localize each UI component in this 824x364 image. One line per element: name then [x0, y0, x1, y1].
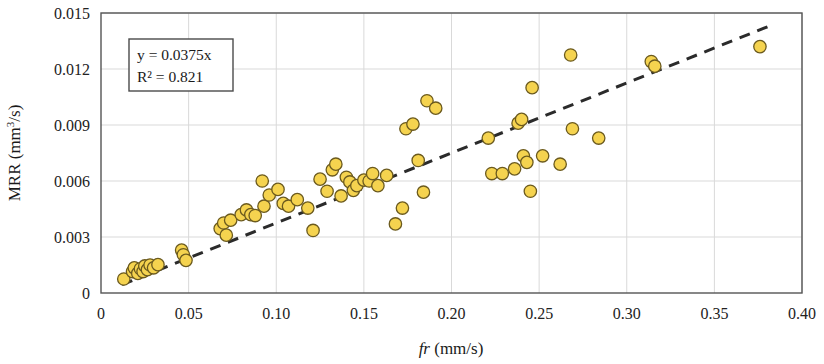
x-tick-label: 0.25 — [525, 305, 553, 322]
data-point — [302, 202, 314, 214]
data-point — [649, 60, 661, 72]
data-point — [566, 123, 578, 135]
data-point — [220, 229, 232, 241]
chart-figure: 00.050.100.150.200.250.300.350.40 00.003… — [0, 0, 824, 364]
data-point — [430, 102, 442, 114]
y-tick-label: 0.009 — [54, 117, 90, 134]
x-tick-label: 0.05 — [175, 305, 203, 322]
scatter-chart: 00.050.100.150.200.250.300.350.40 00.003… — [0, 0, 824, 364]
y-tick-label: 0.015 — [54, 5, 90, 22]
x-tick-label: 0 — [97, 305, 105, 322]
data-point — [330, 158, 342, 170]
equation-annotation-box: y = 0.0375x R² = 0.821 — [129, 39, 233, 91]
data-point — [314, 173, 326, 185]
r-squared-text: R² = 0.821 — [137, 68, 203, 85]
x-tick-label: 0.40 — [788, 305, 816, 322]
x-tick-label: 0.10 — [262, 305, 290, 322]
y-tick-label: 0.006 — [54, 173, 90, 190]
data-point — [372, 179, 384, 191]
data-point — [564, 49, 576, 61]
x-axis-tick-labels: 00.050.100.150.200.250.300.350.40 — [97, 305, 816, 322]
y-axis-tick-labels: 00.0030.0060.0090.0120.015 — [54, 5, 90, 302]
data-point — [526, 81, 538, 93]
y-tick-label: 0.003 — [54, 229, 90, 246]
data-point — [508, 163, 520, 175]
data-point — [412, 154, 424, 166]
data-point — [515, 113, 527, 125]
data-point — [593, 132, 605, 144]
data-point — [180, 254, 192, 266]
data-point — [321, 185, 333, 197]
y-axis-title: MRR (mm3/s) — [4, 105, 24, 202]
data-point — [335, 190, 347, 202]
data-point — [380, 169, 392, 181]
data-point — [536, 150, 548, 162]
data-point — [256, 175, 268, 187]
data-point — [524, 185, 536, 197]
trendline-equation-text: y = 0.0375x — [137, 46, 212, 63]
data-point — [307, 224, 319, 236]
y-tick-label: 0 — [82, 285, 90, 302]
data-point — [389, 218, 401, 230]
data-point — [417, 186, 429, 198]
x-tick-label: 0.15 — [350, 305, 378, 322]
data-point — [496, 167, 508, 179]
data-point — [754, 40, 766, 52]
data-point — [482, 132, 494, 144]
x-tick-label: 0.35 — [700, 305, 728, 322]
x-tick-label: 0.20 — [438, 305, 466, 322]
data-point — [291, 193, 303, 205]
data-point — [258, 200, 270, 212]
data-point — [521, 156, 533, 168]
data-point — [272, 183, 284, 195]
data-point — [407, 118, 419, 130]
data-point — [366, 167, 378, 179]
y-tick-label: 0.012 — [54, 61, 90, 78]
x-tick-label: 0.30 — [613, 305, 641, 322]
data-point — [396, 202, 408, 214]
data-point — [554, 158, 566, 170]
data-point — [152, 258, 164, 270]
x-axis-title: fr (mm/s) — [419, 339, 484, 358]
